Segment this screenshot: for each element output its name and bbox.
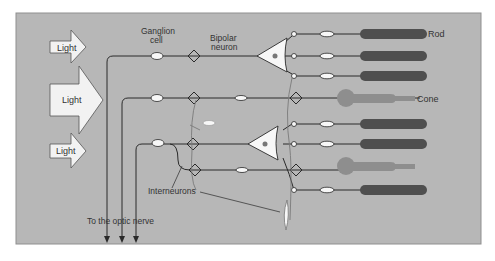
light-label-2: Light: [62, 95, 82, 105]
interneuron-amacrine: [203, 121, 215, 126]
cone-label: Cone: [417, 94, 439, 104]
light-label-3: Light: [56, 146, 76, 156]
light-label-1: Light: [57, 43, 77, 53]
optic-nerve-label: To the optic nerve: [87, 216, 154, 226]
rod-label: Rod: [428, 29, 445, 39]
retina-diagram: Light Light Light Ganglion cell Bipolar …: [0, 0, 495, 261]
bipolar-label-line2: neuron: [211, 42, 238, 52]
ganglion-label-line2: cell: [150, 35, 163, 45]
